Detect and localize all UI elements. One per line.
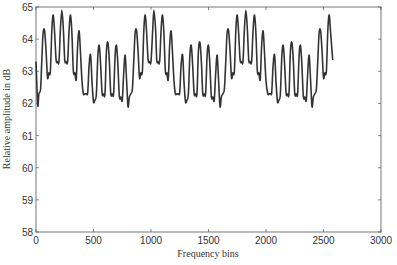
y-tick-label: 62 (22, 98, 34, 109)
plot-area (36, 7, 381, 232)
y-tick-label: 59 (22, 195, 34, 206)
plot-border (36, 7, 381, 232)
y-tick-label: 63 (22, 66, 34, 77)
y-tick-label: 58 (22, 227, 34, 238)
line-chart: 0500100015002000250030005859606162636465… (0, 0, 397, 265)
x-axis-label: Frequency bins (177, 248, 238, 259)
x-tick-label: 2500 (312, 235, 335, 246)
x-tick-label: 2000 (255, 235, 278, 246)
y-tick-label: 65 (22, 2, 34, 13)
y-axis-label: Relative amplitude in dB (1, 69, 12, 170)
data-series (36, 10, 333, 107)
y-tick-label: 60 (22, 163, 34, 174)
x-tick-label: 500 (85, 235, 102, 246)
y-tick-label: 64 (22, 34, 34, 45)
x-tick-label: 3000 (370, 235, 393, 246)
series-line (36, 10, 333, 107)
x-tick-label: 1500 (197, 235, 220, 246)
y-tick-label: 61 (22, 131, 34, 142)
x-tick-label: 1000 (140, 235, 163, 246)
x-tick-label: 0 (33, 235, 39, 246)
